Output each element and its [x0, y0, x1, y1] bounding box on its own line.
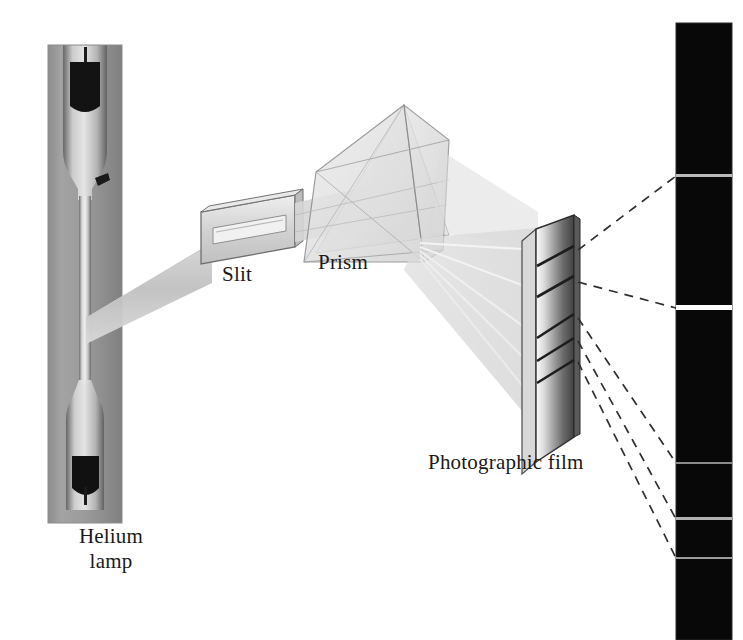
callout-line-1 — [578, 176, 676, 250]
spectrum-line-2 — [676, 305, 732, 310]
prism-label: Prism — [318, 250, 368, 275]
spectrum-line-4 — [676, 517, 732, 520]
helium-lamp-label: Heliumlamp — [56, 524, 166, 574]
spectrum-line-1 — [676, 174, 732, 177]
lamp-label-line1: Helium — [79, 524, 143, 548]
lamp-label-line2: lamp — [90, 549, 133, 573]
spectrum-strip — [676, 23, 732, 640]
dashed-callout-lines — [578, 176, 676, 558]
slit-component — [201, 189, 303, 264]
photographic-film — [522, 215, 580, 474]
callout-line-4 — [578, 341, 676, 519]
spectrum-line-3 — [676, 462, 732, 464]
helium-lamp-photo — [48, 45, 122, 523]
photographic-film-label: Photographic film — [428, 450, 584, 475]
callout-line-2 — [578, 282, 676, 308]
spectrum-line-5 — [676, 557, 732, 559]
figure-canvas: Heliumlamp Slit Prism Photographic film — [0, 0, 743, 640]
slit-label: Slit — [222, 262, 252, 287]
